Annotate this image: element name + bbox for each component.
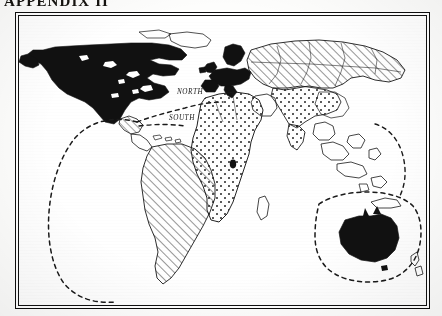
world-map: NORTH SOUTH (19, 16, 426, 305)
figure-frame: NORTH SOUTH (15, 12, 430, 309)
map-label-south: SOUTH (169, 114, 195, 122)
figure-frame-inner: NORTH SOUTH (18, 15, 427, 306)
region-north-america (19, 43, 187, 124)
boundary-americas (49, 119, 137, 302)
page-title-strip: APPENDIX II (0, 0, 442, 11)
region-northern-asia (247, 40, 405, 90)
region-europe (199, 44, 251, 98)
map-label-north: NORTH (176, 88, 204, 96)
page-title: APPENDIX II (4, 0, 109, 10)
region-southern-asia (251, 86, 349, 150)
document-page: APPENDIX II (0, 0, 442, 316)
region-southeast-asia (313, 122, 387, 192)
boundary-asia-east (375, 124, 405, 198)
